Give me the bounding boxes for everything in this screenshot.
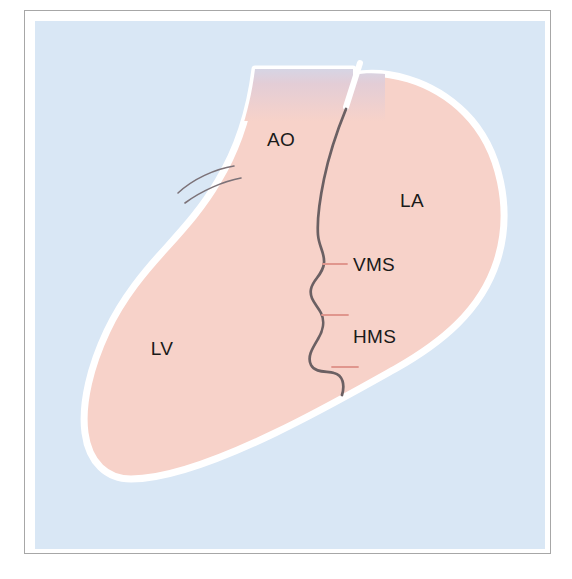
- label-hms: HMS: [353, 326, 396, 347]
- anatomy-diagram: AO LA LV VMS HMS: [35, 21, 545, 549]
- figure-canvas: AO LA LV VMS HMS: [35, 21, 545, 549]
- label-lv: LV: [151, 338, 173, 359]
- figure-root: AO LA LV VMS HMS: [0, 0, 572, 579]
- label-ao: AO: [267, 129, 295, 150]
- label-la: LA: [400, 190, 424, 211]
- label-vms: VMS: [353, 254, 395, 275]
